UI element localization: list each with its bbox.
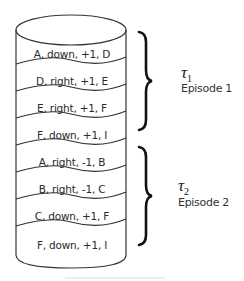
- buffer-entry: F, down, +1, I: [16, 129, 128, 141]
- episode-label-2: Episode 2: [178, 196, 229, 209]
- cropped-caption: [65, 277, 165, 279]
- buffer-entry: E, right, +1, F: [16, 102, 128, 114]
- buffer-entry: C, down, +1, F: [16, 210, 128, 222]
- buffer-entry: F, down, +1, I: [16, 239, 128, 251]
- buffer-entry: A, down, +1, D: [16, 48, 128, 60]
- buffer-entry: D, right, +1, E: [16, 75, 128, 87]
- buffer-entry: A, right, -1, B: [16, 156, 128, 168]
- trajectory-symbol-2: τ2: [178, 176, 189, 197]
- buffer-entry: B, right, -1, C: [16, 183, 128, 195]
- episode-label-1: Episode 1: [181, 82, 232, 95]
